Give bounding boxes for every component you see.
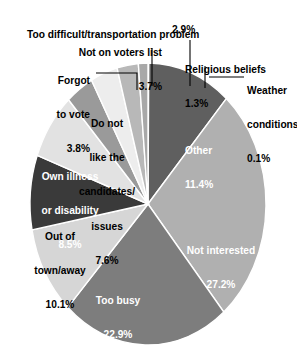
label-weather-conditions: Weather conditions 0.1% [247, 62, 297, 188]
label-other: Other 11.4% [185, 122, 247, 213]
label-too-busy: Too busy 22.9% [80, 272, 156, 363]
label-not-interested-value: 27.2% [175, 279, 267, 290]
label-weather-conditions-text-2: conditions [247, 119, 297, 130]
label-out-of-town-text-1: Out of [18, 231, 102, 242]
label-too-difficult-value: 2.9% [172, 24, 222, 35]
label-too-busy-text: Too busy [80, 295, 156, 306]
label-own-illness-text-1: Own illness [23, 171, 117, 182]
label-not-interested-text: Not interested [175, 245, 267, 256]
label-do-not-like-text-1: Do not [70, 118, 144, 129]
label-forgot-to-vote-text-1: Forgot [8, 75, 90, 86]
label-too-busy-value: 22.9% [80, 329, 156, 340]
label-weather-conditions-text-1: Weather [247, 85, 297, 96]
label-weather-conditions-value: 0.1% [247, 153, 297, 164]
pie-chart-figure: Too difficult/transportation problem 2.9… [0, 0, 297, 364]
label-other-value: 11.4% [185, 179, 247, 190]
label-not-interested: Not interested 27.2% [175, 222, 267, 313]
label-other-text: Other [185, 145, 247, 156]
